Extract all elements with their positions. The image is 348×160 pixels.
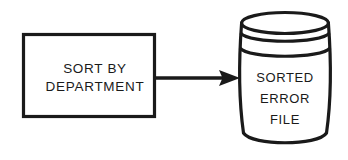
flow-arrow[interactable] [155, 70, 240, 86]
process-label-line-2: DEPARTMENT [46, 79, 145, 94]
datastore-label-line-2: ERROR [260, 91, 310, 106]
diagram-canvas: SORT BY DEPARTMENT SORTED ERROR FILE [0, 0, 348, 160]
flowchart-svg: SORT BY DEPARTMENT SORTED ERROR FILE [0, 0, 348, 160]
datastore-label-line-3: FILE [270, 112, 300, 127]
process-label-line-1: SORT BY [63, 61, 127, 76]
datastore-label-line-1: SORTED [256, 70, 314, 85]
datastore-top-ellipse [242, 13, 329, 34]
datastore-node[interactable]: SORTED ERROR FILE [240, 13, 331, 143]
process-node[interactable]: SORT BY DEPARTMENT [24, 35, 155, 117]
